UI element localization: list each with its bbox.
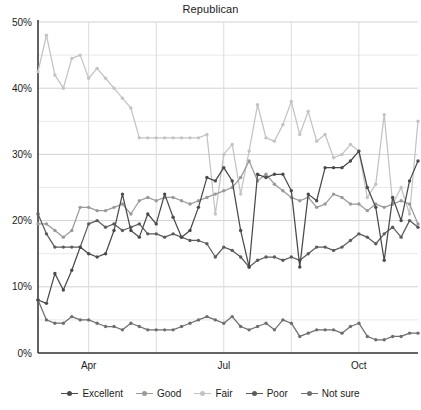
data-point	[112, 87, 115, 90]
data-point	[104, 252, 107, 255]
data-point	[281, 259, 284, 262]
legend-label: Excellent	[82, 388, 123, 399]
data-point	[256, 259, 259, 262]
data-point	[146, 196, 149, 199]
data-point	[45, 34, 48, 37]
data-point	[121, 328, 124, 331]
data-point	[121, 192, 124, 195]
data-point	[79, 318, 82, 321]
legend-marker-icon	[301, 389, 318, 398]
data-point	[264, 176, 267, 179]
data-point	[231, 249, 234, 252]
data-point	[197, 136, 200, 139]
legend-label: Not sure	[322, 388, 360, 399]
data-point	[214, 212, 217, 215]
data-point	[366, 186, 369, 189]
data-point	[239, 325, 242, 328]
data-point	[273, 139, 276, 142]
data-point	[374, 206, 377, 209]
data-point	[138, 222, 141, 225]
data-point	[239, 176, 242, 179]
data-point	[112, 325, 115, 328]
data-point	[62, 288, 65, 291]
data-point	[79, 53, 82, 56]
data-point	[87, 318, 90, 321]
series-line	[38, 214, 418, 267]
data-point	[62, 245, 65, 248]
data-point	[332, 328, 335, 331]
data-point	[383, 232, 386, 235]
x-axis-tick-label: Apr	[81, 360, 97, 371]
data-point	[205, 176, 208, 179]
data-point	[45, 232, 48, 235]
legend-item-fair[interactable]: Fair	[194, 388, 232, 399]
data-point	[155, 328, 158, 331]
data-point	[290, 189, 293, 192]
data-point	[104, 77, 107, 80]
data-point	[408, 179, 411, 182]
data-point	[383, 338, 386, 341]
data-point	[239, 229, 242, 232]
data-point	[315, 328, 318, 331]
data-point	[180, 136, 183, 139]
data-point	[121, 202, 124, 205]
data-point	[163, 235, 166, 238]
data-point	[315, 139, 318, 142]
data-point	[298, 133, 301, 136]
data-point	[121, 229, 124, 232]
data-point	[340, 153, 343, 156]
data-point	[129, 212, 132, 215]
data-point	[383, 206, 386, 209]
legend-item-not-sure[interactable]: Not sure	[301, 388, 360, 399]
data-point	[45, 222, 48, 225]
data-point	[129, 229, 132, 232]
data-point	[214, 192, 217, 195]
data-point	[180, 325, 183, 328]
data-point	[222, 322, 225, 325]
data-point	[36, 222, 39, 225]
data-point	[180, 199, 183, 202]
x-axis-tick-label: Oct	[351, 360, 367, 371]
data-point	[264, 255, 267, 258]
data-point	[315, 206, 318, 209]
data-point	[366, 196, 369, 199]
legend-label: Fair	[215, 388, 232, 399]
data-point	[70, 229, 73, 232]
data-point	[197, 239, 200, 242]
legend-marker-icon	[61, 389, 78, 398]
legend-marker-icon	[194, 389, 211, 398]
data-point	[264, 173, 267, 176]
data-point	[155, 232, 158, 235]
data-point	[138, 235, 141, 238]
data-point	[315, 199, 318, 202]
series-line	[38, 151, 418, 303]
legend-item-excellent[interactable]: Excellent	[61, 388, 123, 399]
data-point	[391, 196, 394, 199]
data-point	[315, 245, 318, 248]
data-point	[53, 73, 56, 76]
data-point	[146, 232, 149, 235]
data-point	[323, 328, 326, 331]
legend-item-good[interactable]: Good	[136, 388, 181, 399]
data-point	[171, 136, 174, 139]
chart-container: Republican 0%10%20%30%40%50%AprJulOct Ex…	[0, 0, 421, 410]
data-point	[188, 229, 191, 232]
data-point	[45, 302, 48, 305]
data-point	[146, 136, 149, 139]
data-point	[408, 212, 411, 215]
data-point	[87, 77, 90, 80]
data-point	[138, 325, 141, 328]
data-point	[340, 196, 343, 199]
data-point	[416, 159, 419, 162]
data-point	[70, 245, 73, 248]
y-axis-tick-label: 30%	[12, 149, 32, 160]
data-point	[399, 219, 402, 222]
data-point	[408, 219, 411, 222]
data-point	[349, 143, 352, 146]
data-point	[87, 222, 90, 225]
data-point	[62, 322, 65, 325]
legend-item-poor[interactable]: Poor	[246, 388, 288, 399]
data-point	[205, 133, 208, 136]
data-point	[36, 212, 39, 215]
data-point	[95, 219, 98, 222]
